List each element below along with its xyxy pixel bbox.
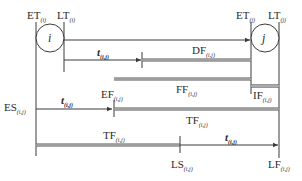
ff-label: FF(i,j) <box>176 83 197 98</box>
lt-j-label: LT(j) <box>268 9 286 24</box>
et-i-label: ET(i) <box>27 9 46 24</box>
lf-label: LF(i,j) <box>268 158 290 173</box>
lt-i-label: LT(i) <box>57 9 75 24</box>
df-label: DF(i,j) <box>192 44 215 59</box>
tf-lower-label: TF(i,j) <box>103 129 125 144</box>
ls-label: LS(i,j) <box>171 158 193 173</box>
tf-upper-label: TF(i,j) <box>186 114 208 129</box>
es-label: ES(i,j) <box>4 101 26 116</box>
ef-label: EF(i,j) <box>101 88 123 103</box>
duration-label-2: t(i,j) <box>61 94 73 109</box>
float-time-diagram: i j ET(i) LT(i) ET(j) LT(j) t(i,j) DF(i,… <box>0 0 302 181</box>
et-j-label: ET(j) <box>236 9 255 24</box>
duration-label-1: t(i,j) <box>97 46 109 61</box>
node-i-label: i <box>48 31 51 45</box>
duration-label-3: t(i,j) <box>225 131 237 146</box>
if-label: IF(i,j) <box>253 89 272 104</box>
